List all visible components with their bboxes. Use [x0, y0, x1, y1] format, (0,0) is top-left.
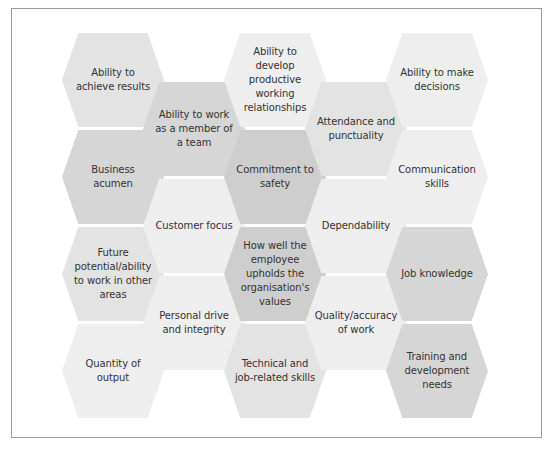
hex-label: Customer focus: [145, 219, 242, 233]
hex-label: Dependability: [312, 219, 400, 233]
hex-label: How well the employee upholds the organi…: [224, 239, 326, 309]
hex-label: Business acumen: [62, 163, 164, 191]
hex-training-needs: Training and development needs: [386, 324, 488, 418]
hex-label: Training and development needs: [386, 350, 488, 392]
hex-label: Job knowledge: [391, 267, 483, 281]
hex-label: Attendance and punctuality: [305, 115, 407, 143]
hex-label: Technical and job-related skills: [224, 357, 326, 385]
hex-job-knowledge: Job knowledge: [386, 227, 488, 321]
hex-label: Personal drive and integrity: [143, 309, 245, 337]
hex-label: Communication skills: [386, 163, 488, 191]
hex-label: Ability to make decisions: [386, 66, 488, 94]
hex-label: Future potential/ability to work in othe…: [62, 246, 164, 302]
hex-label: Ability to work as a member of a team: [143, 108, 245, 150]
hex-label: Ability to achieve results: [62, 66, 164, 94]
hex-label: Commitment to safety: [224, 163, 326, 191]
hex-label: Ability to develop productive working re…: [224, 45, 326, 115]
hex-label: Quality/accuracy of work: [305, 309, 408, 337]
hex-label: Quantity of output: [62, 357, 164, 385]
hex-communication: Communication skills: [386, 130, 488, 224]
hex-make-decisions: Ability to make decisions: [386, 33, 488, 127]
